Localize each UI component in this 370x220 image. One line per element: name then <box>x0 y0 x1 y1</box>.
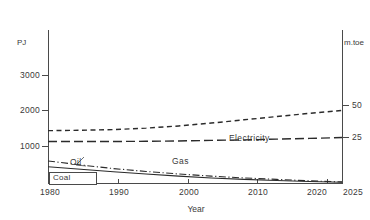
series-label-coal: Coal <box>53 173 71 182</box>
series-plot-area <box>0 0 370 220</box>
series-line-gas <box>48 138 342 142</box>
series-label-oil: Oil <box>70 157 82 167</box>
series-label-gas: Gas <box>172 156 189 166</box>
series-line-electricity <box>48 110 342 130</box>
chart-canvas: PJ m.toe Year 3000 2000 1000 50 25 1980 … <box>0 0 370 220</box>
series-label-electricity: Electricity <box>229 133 270 143</box>
